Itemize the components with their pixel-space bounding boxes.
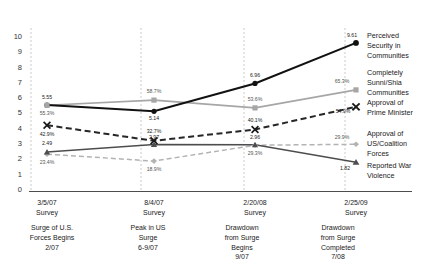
legend-label: Approval of — [367, 129, 403, 138]
y-axis: 10 9 8 7 6 5 4 3 2 1 0 — [14, 32, 22, 194]
data-label: 40.1% — [248, 117, 263, 123]
legend-label: Violence — [367, 171, 394, 180]
x-axis-date: Survey — [345, 209, 367, 217]
legend-item-perceived-security[interactable]: Perceived Security in Communities — [367, 31, 409, 60]
marker-us-coalition — [151, 158, 157, 164]
y-tick-4: 4 — [18, 124, 22, 133]
legend-item-us-coalition[interactable]: Approval of US/Coalition Forces — [367, 129, 407, 158]
series-lines — [47, 43, 356, 162]
data-label: 2.97 — [149, 134, 159, 140]
y-tick-1: 1 — [18, 170, 22, 179]
legend-item-war-violence[interactable]: Reported War Violence — [367, 161, 412, 180]
gridlines — [31, 28, 345, 191]
x-axis-date: 3/5/07 — [37, 199, 57, 206]
data-label: 54.9% — [336, 108, 351, 114]
marker-sunni-shia — [44, 103, 49, 108]
data-label: 1.82 — [340, 165, 350, 171]
x-axis-date: Survey — [143, 209, 165, 217]
x-axis-dates: 3/5/07 Survey 8/4/07 Survey 2/20/08 Surv… — [36, 199, 368, 217]
legend-label: US/Coalition — [367, 139, 407, 148]
data-labels: 5.55 5.14 6.96 9.61 55.3% 58.7% 53.6% 65… — [40, 32, 358, 172]
event-annotation: Surge of U.S. — [31, 224, 73, 232]
event-annotation: Drawdown — [225, 224, 258, 231]
data-label: 2.96 — [250, 134, 260, 140]
event-annotation: 7/08 — [331, 253, 345, 260]
marker-perceived-security — [252, 81, 257, 86]
legend-label: Security in — [367, 41, 401, 50]
data-label: 55.3% — [40, 110, 55, 116]
x-axis-date: 2/20/08 — [243, 199, 266, 206]
marker-prime-minister — [352, 103, 359, 110]
series-line-prime-minister — [47, 107, 356, 141]
event-annotation: from Surge — [321, 234, 356, 242]
legend-item-sunni-shia[interactable]: Completely Sunni/Shia Communities — [367, 68, 409, 97]
event-annotation: Surge — [139, 234, 158, 242]
data-label: 5.55 — [42, 94, 52, 100]
marker-perceived-security — [151, 109, 156, 114]
legend-label: Perceived — [367, 31, 399, 40]
data-label: 9.61 — [347, 32, 357, 38]
y-tick-9: 9 — [18, 47, 22, 56]
event-annotation: Drawdown — [321, 224, 354, 231]
x-axis-date: 2/25/09 — [344, 199, 367, 206]
event-annotation: Forces Begins — [30, 234, 75, 242]
data-label: 58.7% — [147, 88, 162, 94]
y-tick-6: 6 — [18, 93, 22, 102]
event-annotation: Completed — [321, 244, 355, 252]
data-label: 6.96 — [250, 72, 260, 78]
data-label: 2.49 — [42, 140, 52, 146]
data-label: 18.9% — [147, 166, 162, 172]
legend-label: Approval of — [367, 98, 403, 107]
x-axis-date: Survey — [244, 209, 266, 217]
data-label: 23.4% — [40, 159, 55, 165]
data-label: 29.9% — [335, 134, 350, 140]
event-annotation: from Surge — [225, 234, 260, 242]
chart-container: 10 9 8 7 6 5 4 3 2 1 0 — [0, 0, 422, 260]
series-line-us-coalition — [47, 144, 356, 161]
marker-us-coalition — [353, 142, 359, 148]
event-annotation: 9/07 — [235, 253, 249, 260]
y-tick-10: 10 — [14, 32, 22, 41]
event-annotation: 6-9/07 — [138, 244, 158, 251]
legend-label: Forces — [367, 149, 389, 158]
marker-perceived-security — [353, 40, 359, 46]
legend-label: Reported War — [367, 161, 412, 170]
x-axis-date: 8/4/07 — [144, 199, 164, 206]
marker-sunni-shia — [353, 87, 358, 92]
series-line-perceived-security — [47, 43, 356, 111]
event-annotations: Surge of U.S. Forces Begins 2/07 Peak in… — [30, 224, 356, 260]
data-label: 65.3% — [335, 78, 350, 84]
y-tick-0: 0 — [18, 185, 22, 194]
data-label: 5.14 — [149, 115, 159, 121]
legend-label: Completely — [367, 68, 403, 77]
marker-sunni-shia — [151, 98, 156, 103]
legend-label: Sunni/Shia — [367, 78, 402, 87]
event-annotation: Begins — [231, 244, 253, 252]
y-tick-3: 3 — [18, 139, 22, 148]
y-tick-5: 5 — [18, 108, 22, 117]
data-label: 42.9% — [40, 131, 55, 137]
data-label: 53.6% — [248, 96, 263, 102]
legend-label: Communities — [367, 51, 409, 60]
data-label: 29.3% — [248, 150, 263, 156]
legend-label: Communities — [367, 88, 409, 97]
y-tick-7: 7 — [18, 78, 22, 87]
legend-item-prime-minister[interactable]: Approval of Prime Minister — [367, 98, 414, 117]
x-axis-date: Survey — [36, 209, 58, 217]
event-annotation: Peak in US — [130, 224, 165, 231]
y-tick-8: 8 — [18, 63, 22, 72]
marker-sunni-shia — [252, 105, 257, 110]
line-chart: 10 9 8 7 6 5 4 3 2 1 0 — [0, 0, 422, 260]
y-tick-2: 2 — [18, 154, 22, 163]
legend-label: Prime Minister — [367, 108, 414, 117]
chart-legend: Perceived Security in Communities Comple… — [367, 31, 414, 180]
event-annotation: 2/07 — [45, 244, 59, 251]
